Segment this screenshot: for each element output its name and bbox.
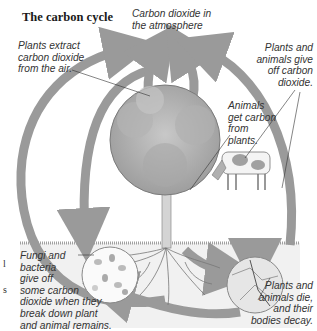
label-plants-extract: Plants extract carbon dioxide from the a… xyxy=(18,40,84,75)
label-decay: Plants and animals die, and their bodies… xyxy=(251,280,313,326)
tree-foliage xyxy=(110,85,220,195)
tree-trunk xyxy=(162,190,171,248)
edge-fragment-1: l xyxy=(3,258,6,269)
diagram-title: The carbon cycle xyxy=(22,10,113,25)
label-fungi: Fungi and bacteria give off some carbon … xyxy=(20,250,112,331)
label-give-off: Plants and animals give off carbon dioxi… xyxy=(256,42,313,88)
label-animals-get: Animals get carbon from plants. xyxy=(228,100,276,146)
cow xyxy=(212,152,270,190)
label-atmosphere: Carbon dioxide in the atmosphere xyxy=(132,8,211,31)
edge-fragment-2: s xyxy=(3,284,7,295)
